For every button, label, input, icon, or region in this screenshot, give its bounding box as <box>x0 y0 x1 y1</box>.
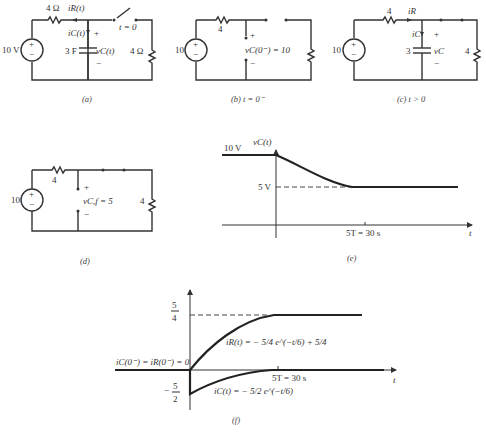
svg-text:−: − <box>193 49 198 59</box>
switch-label: t = 0 <box>119 22 137 32</box>
plus-sign: + <box>250 30 255 40</box>
resistor1-label: 4 <box>387 6 392 16</box>
voltage-label: vC(t) <box>96 46 115 56</box>
resistor1-label: 4 Ω <box>46 3 60 13</box>
svg-text:−: − <box>351 49 356 59</box>
ir-expression: iR(t) = − 5/4 e^(−t/6) + 5/4 <box>226 337 327 347</box>
ic-expression: iC(t) = − 5/2 e^(−t/6) <box>214 386 293 396</box>
svg-text:−: − <box>164 385 169 395</box>
plus-sign: + <box>29 39 34 49</box>
voltage-label: vC,f = 5 <box>83 196 113 206</box>
minus-sign: − <box>84 209 89 219</box>
minus-sign: − <box>250 58 255 68</box>
final-label: 5 V <box>258 182 272 192</box>
y-axis-label: vC(t) <box>253 137 272 147</box>
caption-c: (c) t > 0 <box>397 94 426 104</box>
x-axis-label: t <box>469 228 472 238</box>
capacitor-label: 3 <box>406 46 411 56</box>
circuit-d: + − 10 4 + vC,f = 5 − 4 (d) <box>11 167 155 266</box>
resistor2-label: 4 <box>465 46 470 56</box>
capacitor-current-label: iC <box>412 29 422 39</box>
plus-sign: + <box>94 28 99 38</box>
svg-text:5: 5 <box>173 381 178 391</box>
circuit-c: + − 10 4 iR iC + 3 vC − 4 (c) t > 0 <box>332 6 480 104</box>
minus-sign: − <box>434 58 439 68</box>
source-label: 10 <box>175 45 185 55</box>
resistor2-label: 4 Ω <box>130 46 144 56</box>
minus-sign: − <box>29 49 34 59</box>
svg-text:+: + <box>29 189 34 199</box>
caption-f: (f) <box>232 415 240 425</box>
plus-sign: + <box>84 182 89 192</box>
top-fraction-label: 5 4 <box>171 300 179 323</box>
bottom-fraction-label: − 5 2 <box>164 381 180 404</box>
svg-text:4: 4 <box>172 313 177 323</box>
current-label: iR <box>408 6 417 16</box>
circuit-a: + − 10 V 4 Ω iR(t) t = 0 iC(t) + 3 F vC(… <box>2 3 155 104</box>
x-axis-label: t <box>393 375 396 385</box>
current-label: iR(t) <box>68 3 85 13</box>
plus-sign: + <box>434 29 439 39</box>
resistor1-label: 4 <box>218 24 223 34</box>
svg-text:2: 2 <box>173 394 178 404</box>
source-label: 10 <box>11 195 21 205</box>
caption-a: (a) <box>82 94 92 104</box>
circuit-b: + − 10 4 + vC(0⁻) = 10 − (b) t = 0⁻ <box>175 17 314 104</box>
chart-f: 5 4 − 5 2 iC(0⁻) = iR(0⁻) = 0 iR(t) = − … <box>115 290 396 425</box>
caption-b: (b) t = 0⁻ <box>231 94 266 104</box>
capacitor-current-label: iC(t) <box>68 28 85 38</box>
source-label: 10 V <box>2 45 20 55</box>
capacitor-label: 3 F <box>65 46 77 56</box>
source-label: 10 <box>332 45 342 55</box>
tick-label: 5T = 30 s <box>346 228 381 238</box>
resistor1-label: 4 <box>52 175 57 185</box>
initial-label: 10 V <box>224 143 242 153</box>
voltage-label: vC <box>434 46 445 56</box>
chart-e: 10 V 5 V 5T = 30 s t vC(t) (e) <box>222 137 472 263</box>
minus-sign: − <box>96 58 101 68</box>
initial-current-label: iC(0⁻) = iR(0⁻) = 0 <box>116 357 190 367</box>
tick-label: 5T = 30 s <box>272 373 307 383</box>
resistor2-label: 4 <box>140 196 145 206</box>
caption-e: (e) <box>347 253 357 263</box>
svg-text:+: + <box>351 39 356 49</box>
svg-text:−: − <box>29 199 34 209</box>
svg-text:5: 5 <box>172 300 177 310</box>
svg-text:+: + <box>193 39 198 49</box>
caption-d: (d) <box>80 256 90 266</box>
figure-canvas: + − 10 V 4 Ω iR(t) t = 0 iC(t) + 3 F vC(… <box>0 0 486 436</box>
voltage-label: vC(0⁻) = 10 <box>245 45 291 55</box>
